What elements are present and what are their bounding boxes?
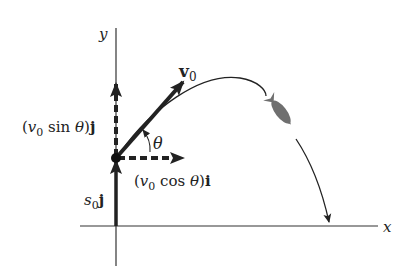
- trajectory-curve-upper: [120, 77, 266, 153]
- theta-arc: [143, 130, 150, 152]
- projectile-diagram: y x v0 θ (v0 sin θ)j (v0 cos θ)i s0j: [0, 0, 414, 270]
- launch-point: [111, 153, 121, 163]
- vertical-component-label: (v0 sin θ)j: [22, 118, 95, 139]
- y-axis-label: y: [98, 25, 108, 43]
- s0-label: s0j: [84, 191, 104, 212]
- v0-label: v0: [178, 61, 197, 84]
- rocket-icon: [263, 92, 296, 129]
- x-axis-label: x: [383, 218, 392, 236]
- theta-label: θ: [153, 134, 163, 153]
- trajectory-curve-lower: [296, 139, 329, 222]
- horizontal-component-label: (v0 cos θ)i: [134, 172, 211, 193]
